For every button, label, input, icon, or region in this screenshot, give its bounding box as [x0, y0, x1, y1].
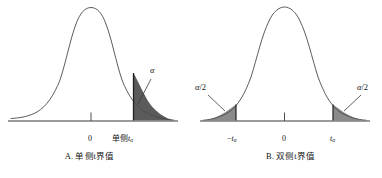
alpha-half-right-leader-line [344, 95, 361, 111]
chart-panel-one-tailed: α 0 单侧tα A. 单侧t界值 [0, 0, 191, 178]
t-distribution-curve [203, 7, 366, 120]
annotation-alpha-symbol: α [150, 65, 154, 75]
axis-label-one-tailed-prefix: 单侧 [112, 134, 128, 143]
axis-label-negative-sub: α [234, 137, 237, 143]
caption-panel-a: A. 单侧t界值 [0, 152, 185, 161]
alpha-half-left-leader-line [208, 95, 225, 111]
axis-label-positive-sub: α [332, 137, 335, 143]
chart-panel-two-tailed: α/2 α/2 −tα 0 tα B. 双侧t界值 [191, 0, 382, 178]
shaded-region-upper-tail-alpha [134, 73, 175, 121]
axis-label-one-tailed-sub: α [130, 137, 133, 143]
t-distribution-curve [11, 8, 174, 121]
axis-label-negative-critical: −tα [227, 135, 237, 143]
annotation-alpha: α [150, 66, 154, 75]
figure-sheet: α 0 单侧tα A. 单侧t界值 [0, 0, 382, 178]
annotation-alpha-half-left: α/2 [195, 83, 206, 92]
shaded-region-upper-tail-alpha-half [333, 105, 366, 121]
axis-label-one-tailed-critical: 单侧tα [112, 135, 133, 143]
axis-label-positive-critical: tα [330, 135, 335, 143]
annotation-alpha-half-right: α/2 [357, 83, 368, 92]
annotation-alpha-half-left-frac: /2 [199, 82, 206, 92]
axis-label-zero-text: 0 [88, 134, 92, 143]
one-tailed-distribution-plot [0, 0, 191, 150]
annotation-alpha-half-right-frac: /2 [361, 82, 368, 92]
axis-label-zero-text: 0 [282, 134, 286, 143]
axis-label-zero: 0 [88, 135, 92, 143]
shaded-region-lower-tail-alpha-half [203, 105, 236, 121]
caption-panel-b: B. 双侧t界值 [195, 152, 382, 161]
two-tailed-distribution-plot [191, 0, 382, 150]
axis-label-zero: 0 [282, 135, 286, 143]
